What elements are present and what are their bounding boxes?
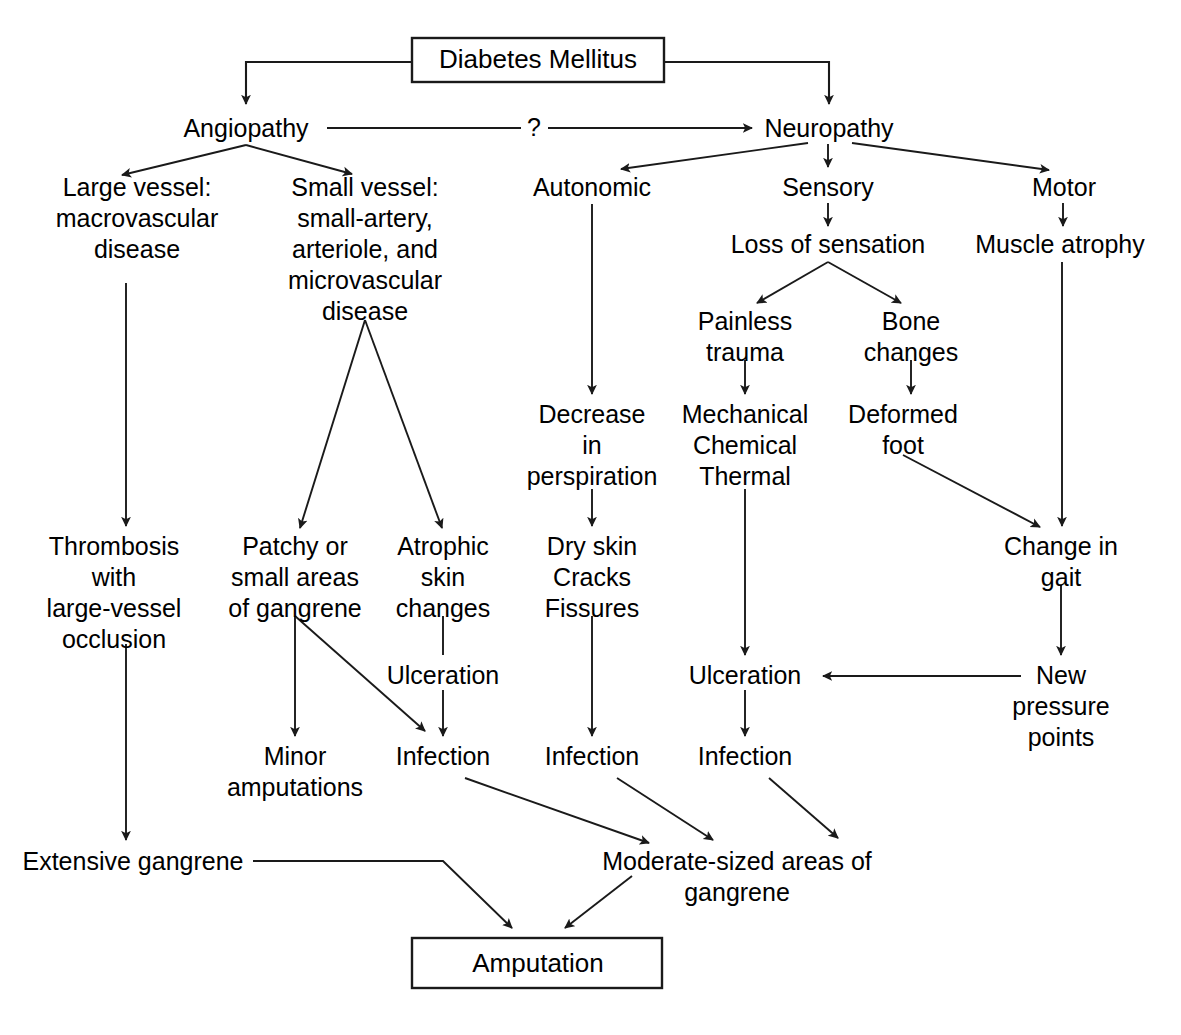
- edge-neuropathy-to-autonomic: [621, 143, 808, 169]
- node-thrombosis: Thrombosis with large-vessel occlusion: [14, 531, 214, 655]
- node-patchy-gangrene: Patchy or small areas of gangrene: [200, 531, 390, 624]
- node-small-vessel: Small vessel: small-artery, arteriole, a…: [250, 172, 480, 327]
- edge-neuropathy-to-motor: [852, 143, 1049, 170]
- node-motor: Motor: [984, 172, 1144, 203]
- node-autonomic: Autonomic: [492, 172, 692, 203]
- node-deformed-foot: Deformed foot: [818, 399, 988, 461]
- edge-deformed-foot-to-change-in-gait: [903, 455, 1040, 527]
- edge-infection-3-to-moderate-gangrene: [769, 778, 838, 838]
- edge-infection-1-to-moderate-gangrene: [465, 778, 649, 843]
- node-large-vessel: Large vessel: macrovascular disease: [12, 172, 262, 265]
- node-infection-3: Infection: [665, 741, 825, 772]
- node-angiopathy: Angiopathy: [146, 113, 346, 144]
- node-atrophic-skin-changes: Atrophic skin changes: [368, 531, 518, 624]
- node-infection-2: Infection: [512, 741, 672, 772]
- node-change-in-gait: Change in gait: [971, 531, 1151, 593]
- node-ulceration-right: Ulceration: [655, 660, 835, 691]
- node-moderate-sized-areas-of-gangrene: Moderate-sized areas of gangrene: [582, 846, 892, 908]
- node-neuropathy: Neuropathy: [729, 113, 929, 144]
- edge-angiopathy-to-large-vessel: [122, 145, 246, 175]
- node-dry-skin-cracks-fissures: Dry skin Cracks Fissures: [512, 531, 672, 624]
- node-amputation: Amputation: [413, 948, 663, 978]
- node-diabetes-mellitus: Diabetes Mellitus: [408, 44, 668, 74]
- node-muscle-atrophy: Muscle atrophy: [945, 229, 1175, 260]
- node-extensive-gangrene: Extensive gangrene: [3, 846, 263, 877]
- edge-loss-to-bone-changes: [828, 262, 901, 303]
- node-uncertain-link-label: ?: [527, 113, 541, 142]
- node-infection-1: Infection: [363, 741, 523, 772]
- edge-small-vessel-to-atrophic: [365, 320, 442, 528]
- node-ulceration-left: Ulceration: [353, 660, 533, 691]
- edge-loss-to-painless-trauma: [757, 262, 828, 303]
- flowchart-canvas: Diabetes Mellitus Angiopathy ? Neuropath…: [0, 0, 1181, 1035]
- node-mechanical-chemical-thermal: Mechanical Chemical Thermal: [655, 399, 835, 492]
- edge-extensive-gangrene-to-amputation: [253, 861, 512, 928]
- node-loss-of-sensation: Loss of sensation: [703, 229, 953, 260]
- node-painless-trauma: Painless trauma: [660, 306, 830, 368]
- edge-infection-2-to-moderate-gangrene: [617, 778, 713, 840]
- node-sensory: Sensory: [728, 172, 928, 203]
- edge-diabetes-to-neuropathy: [664, 62, 829, 104]
- node-new-pressure-points: New pressure points: [981, 660, 1141, 753]
- edge-small-vessel-to-patchy: [300, 320, 365, 528]
- edge-diabetes-to-angiopathy: [246, 62, 412, 104]
- edge-angiopathy-to-small-vessel: [246, 145, 352, 174]
- node-bone-changes: Bone changes: [826, 306, 996, 368]
